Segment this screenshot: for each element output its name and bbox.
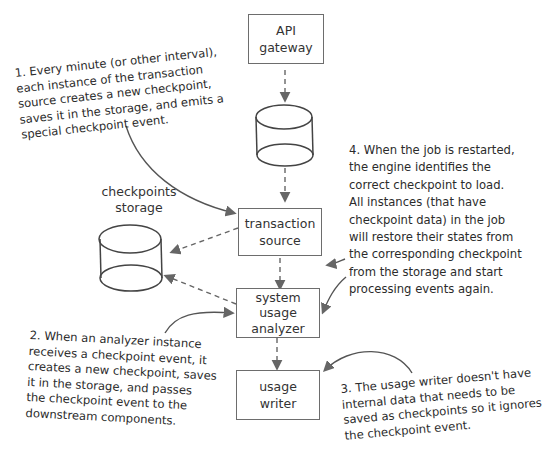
usage-writer-label-line1: usage	[259, 378, 297, 395]
api-gateway-label-line2: gateway	[259, 39, 312, 56]
usage-writer-label-line2: writer	[260, 395, 297, 412]
system-usage-analyzer-node: system usage analyzer	[236, 288, 320, 338]
checkpoints-storage-label: checkpoints storage	[98, 184, 180, 216]
api-gateway-node: API gateway	[248, 14, 324, 64]
api-gateway-label-line1: API	[276, 22, 296, 39]
note-4-job-restart: 4. When the job is restarted, the engine…	[349, 142, 549, 299]
transaction-source-label-line2: source	[259, 232, 301, 249]
checkpoints-storage-label-line1: checkpoints	[98, 184, 180, 200]
analyzer-label-line1: system	[255, 290, 300, 306]
analyzer-label-line3: analyzer	[251, 321, 305, 337]
transaction-source-label-line1: transaction	[245, 215, 316, 232]
analyzer-label-line2: usage	[259, 305, 297, 321]
usage-writer-node: usage writer	[236, 370, 320, 420]
checkpoints-storage-database-icon	[99, 225, 162, 291]
checkpoints-storage-label-line2: storage	[98, 200, 180, 216]
note-2-analyzer-checkpoint: 2. When an analyzer instance receives a …	[25, 328, 240, 432]
queue-database-icon	[256, 105, 313, 166]
transaction-source-node: transaction source	[238, 208, 322, 256]
